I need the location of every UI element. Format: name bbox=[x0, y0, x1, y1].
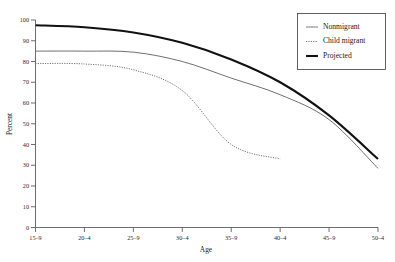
x-tick-label: 15–9 bbox=[29, 234, 41, 241]
x-axis-title: Age bbox=[200, 245, 213, 254]
y-tick-label: 80 bbox=[23, 58, 29, 65]
x-tick-label: 40–4 bbox=[274, 234, 286, 241]
x-tick-label: 50–4 bbox=[372, 234, 384, 241]
y-tick-label: 90 bbox=[23, 37, 29, 44]
x-tick-label: 30–4 bbox=[176, 234, 188, 241]
y-tick-label: 60 bbox=[23, 99, 29, 106]
legend-label-child-migrant: Child migrant bbox=[323, 36, 366, 45]
x-tick-label: 25–9 bbox=[127, 234, 139, 241]
legend-label-projected: Projected bbox=[323, 51, 352, 60]
y-tick-label: 100 bbox=[20, 16, 29, 23]
y-tick-label: 40 bbox=[23, 141, 29, 148]
series-line-child-migrant bbox=[36, 63, 281, 159]
legend: Nonmigrant Child migrant Projected bbox=[298, 14, 386, 70]
legend-label-nonmigrant: Nonmigrant bbox=[323, 22, 361, 31]
x-axis-ticks: 15–920–425–930–435–940–445–950–4 bbox=[29, 228, 384, 242]
chart-container: 0102030405060708090100 15–920–425–930–43… bbox=[0, 0, 395, 262]
y-axis-title: Percent bbox=[5, 112, 14, 135]
y-tick-label: 50 bbox=[23, 120, 29, 127]
x-tick-label: 20–4 bbox=[78, 234, 90, 241]
y-tick-label: 0 bbox=[26, 224, 29, 231]
y-tick-label: 10 bbox=[23, 203, 29, 210]
line-chart: 0102030405060708090100 15–920–425–930–43… bbox=[0, 0, 395, 262]
y-axis-ticks: 0102030405060708090100 bbox=[20, 16, 36, 231]
x-tick-label: 45–9 bbox=[323, 234, 335, 241]
y-tick-label: 20 bbox=[23, 182, 29, 189]
x-tick-label: 35–9 bbox=[225, 234, 237, 241]
y-tick-label: 70 bbox=[23, 78, 29, 85]
y-tick-label: 30 bbox=[23, 161, 29, 168]
